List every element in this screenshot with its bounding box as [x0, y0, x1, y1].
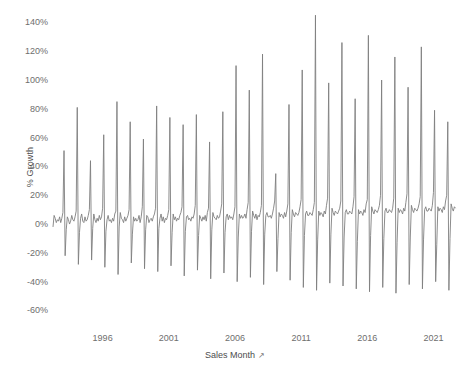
x-tick-label: 2016 [337, 333, 397, 344]
growth-line-chart: % Growth 140%120%100%80%60%40%20%0%-20%-… [0, 0, 470, 375]
x-axis-title-text: Sales Month [205, 350, 255, 360]
x-tick-label: 2011 [271, 333, 331, 344]
x-axis-title-row: Sales Month↗ [0, 350, 470, 360]
x-tick-label: 2006 [205, 333, 265, 344]
x-tick-label: 2021 [403, 333, 463, 344]
series-line-growth [53, 15, 456, 293]
plot-area [0, 0, 470, 375]
x-tick-label: 2001 [139, 333, 199, 344]
sort-ascending-icon[interactable]: ↗ [258, 351, 265, 360]
x-tick-label: 1996 [73, 333, 133, 344]
